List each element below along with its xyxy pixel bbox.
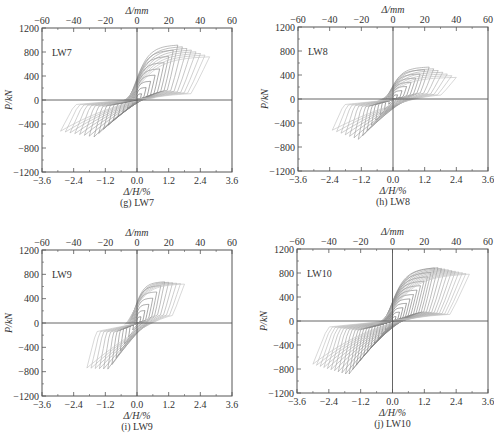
- x-tick-label: 0.0: [131, 175, 144, 186]
- x-axis-title: Δ/H/%: [378, 407, 406, 418]
- y-tick-label: −400: [18, 119, 39, 130]
- specimen-label: LW9: [52, 269, 72, 280]
- x-tick-label: −2.4: [65, 399, 83, 410]
- panel-caption: (i) LW9: [121, 421, 153, 433]
- x-top-tick-label: 40: [451, 14, 461, 25]
- x-top-tick-label: 60: [483, 14, 493, 25]
- y-axis-title: P/kN: [3, 312, 14, 334]
- x-tick-label: 0.0: [387, 174, 400, 185]
- x-tick-label: 3.6: [482, 174, 494, 185]
- x-tick-label: 2.4: [194, 175, 207, 186]
- panel-caption: (h) LW8: [376, 196, 410, 208]
- panel-g-lw7: −3.6−2.4−1.20.01.22.43.6−60−40−200204060…: [3, 5, 238, 209]
- x-top-tick-label: 40: [451, 236, 461, 247]
- x-top-tick-label: −40: [66, 15, 82, 26]
- x-tick-label: 3.6: [482, 396, 494, 407]
- x-tick-label: −1.2: [96, 399, 114, 410]
- specimen-label: LW7: [52, 47, 72, 58]
- y-tick-label: 400: [24, 71, 39, 82]
- y-tick-label: −400: [274, 118, 295, 129]
- x-axis-title: Δ/H/%: [123, 186, 151, 197]
- y-tick-label: −1200: [13, 167, 39, 178]
- x-tick-label: 2.4: [194, 399, 207, 410]
- x-tick-label: 0.0: [386, 396, 399, 407]
- x-top-tick-label: −40: [66, 237, 82, 248]
- x-tick-label: 1.2: [162, 175, 175, 186]
- hysteresis-loops: [87, 282, 185, 369]
- x-top-tick-label: −20: [353, 236, 369, 247]
- x-tick-label: −1.2: [352, 174, 370, 185]
- x-axis-title: Δ/H/%: [123, 410, 151, 421]
- x-tick-label: 0.0: [131, 399, 144, 410]
- y-tick-label: 0: [34, 95, 39, 106]
- x-top-tick-label: −20: [354, 14, 370, 25]
- x-top-tick-label: 40: [195, 237, 205, 248]
- panel-j-lw10: −3.6−2.4−1.20.01.22.43.6−60−40−200204060…: [258, 226, 494, 430]
- specimen-label: LW8: [308, 46, 328, 57]
- y-tick-label: 1200: [275, 22, 295, 33]
- x-top-axis-title: Δ/mm: [124, 227, 148, 238]
- x-top-tick-label: 20: [420, 14, 430, 25]
- x-tick-label: 1.2: [162, 399, 175, 410]
- hysteresis-loops: [332, 67, 456, 139]
- x-top-tick-label: 20: [419, 236, 429, 247]
- x-top-axis-title: Δ/mm: [124, 5, 148, 16]
- hysteresis-loop: [108, 63, 164, 125]
- figure-hysteresis-curves: −3.6−2.4−1.20.01.22.43.6−60−40−200204060…: [0, 0, 494, 441]
- x-top-tick-label: −40: [321, 236, 337, 247]
- x-top-tick-label: 20: [164, 237, 174, 248]
- y-tick-label: 0: [289, 316, 294, 327]
- y-tick-label: −1200: [268, 388, 294, 399]
- x-top-axis-title: Δ/mm: [380, 4, 404, 15]
- y-tick-label: −400: [273, 340, 294, 351]
- x-tick-label: 3.6: [226, 175, 239, 186]
- x-tick-label: 2.4: [450, 174, 463, 185]
- y-tick-label: −800: [273, 364, 294, 375]
- y-tick-label: 0: [290, 94, 295, 105]
- x-top-tick-label: −20: [98, 237, 114, 248]
- x-tick-label: −1.2: [96, 175, 114, 186]
- x-top-tick-label: −20: [98, 15, 114, 26]
- specimen-label: LW10: [307, 268, 332, 279]
- x-tick-label: 1.2: [418, 174, 431, 185]
- x-top-tick-label: 40: [195, 15, 205, 26]
- y-tick-label: 1200: [274, 244, 294, 255]
- x-top-tick-label: 0: [135, 15, 140, 26]
- y-tick-label: 400: [280, 70, 295, 81]
- x-tick-label: −2.4: [65, 175, 83, 186]
- x-tick-label: 2.4: [450, 396, 463, 407]
- y-tick-label: 800: [280, 46, 295, 57]
- hysteresis-loop: [335, 270, 449, 371]
- y-tick-label: 800: [24, 269, 39, 280]
- panel-h-lw8: −3.6−2.4−1.20.01.22.43.6−60−40−200204060…: [259, 4, 494, 208]
- panel-i-lw9: −3.6−2.4−1.20.01.22.43.6−60−40−200204060…: [3, 227, 238, 433]
- y-axis-title: P/kN: [258, 310, 269, 332]
- x-tick-label: −1.2: [352, 396, 370, 407]
- y-tick-label: 800: [279, 268, 294, 279]
- y-tick-label: −400: [18, 342, 39, 353]
- y-tick-label: 1200: [19, 23, 39, 34]
- y-axis-title: P/kN: [259, 88, 270, 110]
- hysteresis-loop: [87, 284, 185, 368]
- x-top-tick-label: 60: [227, 15, 237, 26]
- y-tick-label: 0: [34, 318, 39, 329]
- y-tick-label: −800: [18, 143, 39, 154]
- x-top-tick-label: −40: [322, 14, 338, 25]
- hysteresis-loops: [61, 45, 210, 137]
- panel-caption: (j) LW10: [374, 418, 411, 430]
- x-top-tick-label: 20: [164, 15, 174, 26]
- x-top-tick-label: 60: [483, 236, 493, 247]
- y-tick-label: 400: [24, 293, 39, 304]
- x-top-tick-label: 0: [390, 236, 395, 247]
- x-tick-label: 1.2: [418, 396, 431, 407]
- x-tick-label: −2.4: [321, 174, 339, 185]
- hysteresis-loop: [91, 284, 181, 369]
- panel-caption: (g) LW7: [120, 197, 154, 209]
- x-top-tick-label: 60: [227, 237, 237, 248]
- y-tick-label: −800: [274, 142, 295, 153]
- x-top-tick-label: 0: [135, 237, 140, 248]
- x-tick-label: −2.4: [320, 396, 338, 407]
- y-axis-title: P/kN: [3, 89, 14, 111]
- y-tick-label: −1200: [13, 391, 39, 402]
- footer-caption-faint: [150, 430, 350, 438]
